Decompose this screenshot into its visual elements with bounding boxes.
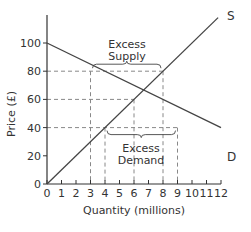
x-axis-label: Quantity (millions)	[83, 204, 185, 217]
x-tick-label: 6	[131, 187, 138, 200]
x-tick-label: 4	[102, 187, 109, 200]
x-tick-label: 2	[73, 187, 80, 200]
x-tick-label: 9	[174, 187, 181, 200]
y-tick-label: 20	[27, 150, 41, 163]
excess-supply-label-line2: Supply	[108, 50, 146, 63]
x-tick-label: 7	[145, 187, 152, 200]
x-tick-label: 11	[200, 187, 214, 200]
demand-curve-label: D	[227, 150, 236, 164]
y-tick-label: 40	[27, 122, 41, 135]
y-tick-label: 80	[27, 65, 41, 78]
y-tick-label: 60	[27, 93, 41, 106]
excess-demand-label-line2: Demand	[118, 154, 165, 167]
y-tick-label: 100	[20, 37, 41, 50]
x-tick-label: 0	[44, 187, 51, 200]
x-tick-label: 12	[214, 187, 228, 200]
x-tick-label: 8	[160, 187, 167, 200]
x-tick-label: 5	[116, 187, 123, 200]
x-tick-label: 10	[185, 187, 199, 200]
reference-lines	[47, 71, 178, 184]
supply-demand-chart: 0204060801000123456789101112 Quantity (m…	[0, 0, 251, 232]
x-tick-label: 3	[87, 187, 94, 200]
supply-curve-label: S	[227, 9, 235, 23]
x-tick-label: 1	[58, 187, 65, 200]
y-axis-label: Price (£)	[5, 91, 18, 137]
y-tick-label: 0	[34, 178, 41, 191]
bracket	[107, 131, 176, 138]
